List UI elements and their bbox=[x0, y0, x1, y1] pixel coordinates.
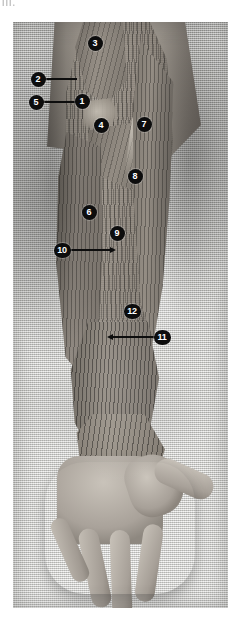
photograph-plate: 123456789101112 bbox=[13, 22, 228, 608]
callout-marker-2[interactable]: 2 bbox=[31, 72, 46, 87]
hand bbox=[35, 452, 203, 602]
callout-marker-7[interactable]: 7 bbox=[137, 117, 152, 132]
callout-marker-11[interactable]: 11 bbox=[154, 330, 171, 345]
callout-marker-5[interactable]: 5 bbox=[29, 95, 44, 110]
callout-marker-6[interactable]: 6 bbox=[82, 205, 97, 220]
leader-line-11 bbox=[113, 336, 155, 338]
callout-marker-3[interactable]: 3 bbox=[88, 36, 103, 51]
finger-middle bbox=[110, 530, 133, 608]
leader-line-2 bbox=[45, 78, 77, 80]
callout-marker-4[interactable]: 4 bbox=[94, 118, 109, 133]
leader-arrowhead-10 bbox=[110, 247, 116, 253]
specimen-layer bbox=[13, 22, 228, 608]
callout-marker-8[interactable]: 8 bbox=[128, 169, 143, 184]
anatomical-figure: III. bbox=[0, 0, 239, 625]
callout-marker-12[interactable]: 12 bbox=[124, 304, 141, 319]
leader-arrowhead-11 bbox=[107, 334, 113, 340]
callout-marker-9[interactable]: 9 bbox=[110, 226, 125, 241]
clipped-header-artifact: III. bbox=[2, 0, 38, 7]
callout-marker-10[interactable]: 10 bbox=[54, 243, 71, 258]
callout-marker-1[interactable]: 1 bbox=[75, 94, 90, 109]
leader-line-10 bbox=[70, 249, 110, 251]
